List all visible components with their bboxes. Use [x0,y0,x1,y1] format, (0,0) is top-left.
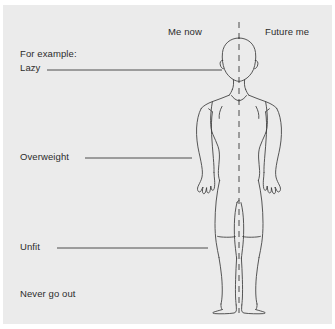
label-never-go-out: Never go out [20,288,76,299]
armpit-left [209,109,213,112]
chest-line-right [256,106,259,118]
label-lazy: Lazy [20,62,40,73]
thigh-outer-left [215,180,220,257]
jawline-right [244,80,245,90]
thigh-outer-right [258,180,263,257]
knee-left [218,236,236,237]
label-for-example: For example: [20,48,77,59]
arm-inner-right [264,112,267,173]
jawline-left [232,80,233,90]
label-overweight: Overweight [20,151,69,162]
chest-line-left [219,106,222,118]
calf-inner-left [235,258,236,305]
collar-hollow-left [232,96,239,101]
column-header-me-now: Me now [168,26,202,37]
arm-inner-left [211,112,214,173]
shoulder-left [201,95,229,108]
knee-right [243,236,261,237]
arm-outer-left [197,108,215,193]
column-header-future-me: Future me [265,26,309,37]
calf-outer-right [256,258,259,304]
shoulder-right [249,95,277,108]
arm-outer-right [263,108,281,193]
foot-right [242,305,266,314]
neck-left [229,89,232,95]
inner-thigh-right [241,203,244,259]
foot-left [213,305,237,314]
ankle-right [256,304,257,310]
calf-inner-right [241,258,242,305]
collar-hollow-right [239,96,246,101]
leader-lines [47,70,222,248]
ankle-left [221,304,222,310]
label-unfit: Unfit [20,241,40,252]
diagram-canvas: Me now Future me For example: Lazy Overw… [0,0,335,329]
calf-outer-left [219,258,222,304]
armpit-right [266,109,270,112]
inner-thigh-left [234,203,237,259]
neck-right [246,89,249,95]
